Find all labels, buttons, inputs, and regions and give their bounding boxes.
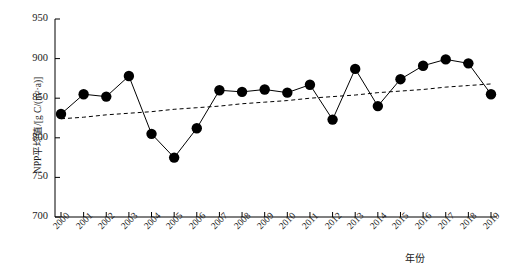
trendline [61,84,491,119]
data-point-marker [373,101,383,111]
y-axis-tick-label: 750 [14,170,48,181]
plot-area [0,0,510,274]
data-point-marker [486,89,496,99]
axes [55,19,497,217]
data-point-marker [214,85,224,95]
data-point-marker [282,87,292,97]
data-point-markers [56,54,496,163]
data-point-marker [56,109,66,119]
y-axis-tick-label: 800 [14,131,48,142]
data-point-marker [124,71,134,81]
data-point-marker [259,84,269,94]
data-point-marker [101,91,111,101]
data-point-marker [327,114,337,124]
data-point-marker [146,129,156,139]
data-point-marker [418,61,428,71]
trendline-series [61,84,491,119]
data-point-marker [350,64,360,74]
data-point-marker [395,74,405,84]
data-point-marker [192,123,202,133]
y-axis-tick-label: 950 [14,12,48,23]
y-axis-tick-label: 700 [14,210,48,221]
data-point-marker [169,152,179,162]
data-point-marker [441,54,451,64]
data-point-marker [237,87,247,97]
data-point-marker [463,58,473,68]
x-axis-title: 年份 [405,250,425,265]
npp-line-chart: NPP平均值/[g C/(m²·a)] 700750800850900950 2… [0,0,510,274]
data-point-marker [78,89,88,99]
y-axis-tick-label: 850 [14,91,48,102]
data-point-marker [305,80,315,90]
y-axis-tick-label: 900 [14,52,48,63]
